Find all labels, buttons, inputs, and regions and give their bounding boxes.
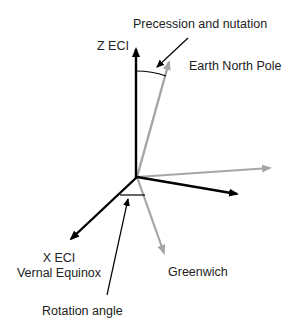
greenwich-label: Greenwich	[168, 265, 228, 279]
axes-drawing	[0, 0, 294, 330]
earth-north-pole-label: Earth North Pole	[189, 59, 281, 73]
vernal-equinox-label: Vernal Equinox	[17, 266, 101, 280]
earth-y-axis	[137, 168, 270, 177]
greenwich-axis	[137, 177, 164, 253]
rotation-pointer	[107, 199, 128, 295]
precession-pointer	[157, 38, 188, 67]
precession-arc	[136, 71, 166, 76]
eci-y-axis	[137, 177, 237, 194]
eci-frame-diagram: Precession and nutation Z ECI Earth Nort…	[0, 0, 294, 330]
precession-label: Precession and nutation	[133, 17, 267, 31]
rotation-angle-label: Rotation angle	[42, 304, 123, 318]
earth-north-pole-axis	[137, 62, 169, 177]
x-eci-axis	[71, 177, 137, 239]
x-eci-label: X ECI	[43, 251, 76, 265]
z-eci-label: Z ECI	[97, 39, 129, 53]
